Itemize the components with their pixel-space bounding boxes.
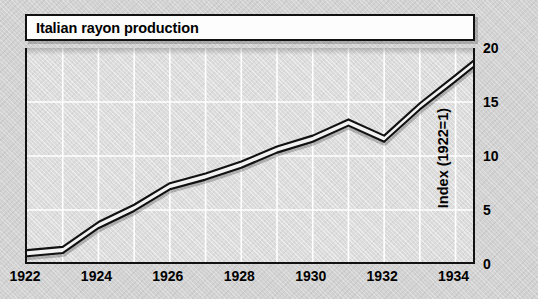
y-axis-label: Index (1922=1) xyxy=(435,108,451,208)
x-tick-label: 1924 xyxy=(81,268,112,284)
x-tick-label: 1926 xyxy=(152,268,183,284)
y-tick-label: 20 xyxy=(483,40,499,56)
page-title: Italian rayon production xyxy=(36,20,199,36)
plot-area xyxy=(25,48,475,264)
x-tick-label: 1928 xyxy=(224,268,255,284)
chart-title-bar: Italian rayon production xyxy=(25,14,475,41)
x-tick-label: 1934 xyxy=(438,268,469,284)
x-tick-label: 1930 xyxy=(295,268,326,284)
y-tick-label: 0 xyxy=(483,256,491,272)
x-tick-label: 1922 xyxy=(9,268,40,284)
y-tick-label: 10 xyxy=(483,148,499,164)
chart-figure: Italian rayon production 192219241926192… xyxy=(0,0,538,299)
y-tick-label: 15 xyxy=(483,94,499,110)
line-chart-svg xyxy=(27,48,475,264)
series-line-upper xyxy=(27,58,475,250)
x-tick-label: 1932 xyxy=(367,268,398,284)
y-tick-label: 5 xyxy=(483,202,491,218)
